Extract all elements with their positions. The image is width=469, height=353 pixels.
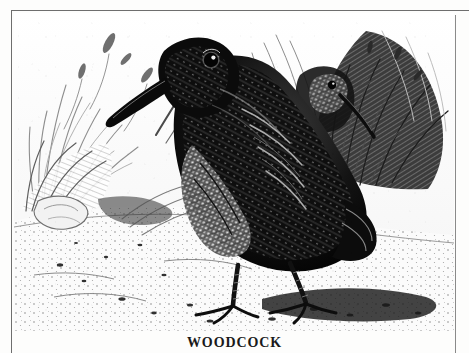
plate-caption: WOODCOCK	[0, 335, 469, 351]
frame-rule-top	[11, 10, 469, 11]
engraving-page: WOODCOCK	[0, 0, 469, 353]
woodcock-engraving-artwork	[14, 13, 454, 331]
frame-rule-left	[11, 10, 12, 353]
illustration-plate	[14, 13, 454, 331]
frame-rule-right	[455, 15, 456, 353]
